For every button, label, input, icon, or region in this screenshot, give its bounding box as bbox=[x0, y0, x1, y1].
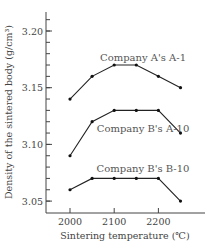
series-3: Company B's B-10 bbox=[68, 163, 189, 203]
data-point bbox=[68, 154, 71, 157]
data-point bbox=[179, 200, 182, 203]
series-line bbox=[70, 178, 181, 201]
data-point bbox=[113, 109, 116, 112]
y-tick-label: 3.10 bbox=[22, 139, 43, 150]
series-line bbox=[70, 65, 181, 99]
data-point bbox=[157, 177, 160, 180]
data-point bbox=[157, 109, 160, 112]
data-point bbox=[135, 63, 138, 66]
y-tick-label: 3.20 bbox=[22, 26, 43, 37]
data-point bbox=[113, 177, 116, 180]
series-label: Company A's A-1 bbox=[100, 52, 186, 63]
data-point bbox=[135, 109, 138, 112]
x-tick-label: 2100 bbox=[102, 216, 126, 227]
data-point bbox=[157, 75, 160, 78]
data-point bbox=[91, 177, 94, 180]
series-1: Company A's A-1 bbox=[68, 52, 186, 101]
series-group: Company A's A-1Company B's A-10Company B… bbox=[68, 52, 189, 203]
series-label: Company B's B-10 bbox=[97, 163, 190, 174]
data-point bbox=[113, 63, 116, 66]
series-2: Company B's A-10 bbox=[68, 109, 189, 158]
y-axis-title: Density of the sintered body (g/cm³) bbox=[3, 25, 14, 199]
data-point bbox=[91, 120, 94, 123]
y-tick-label: 3.15 bbox=[22, 82, 43, 93]
data-point bbox=[135, 177, 138, 180]
x-tick-label: 2000 bbox=[58, 216, 82, 227]
x-axis-title: Sintering temperature (℃) bbox=[60, 230, 189, 241]
data-point bbox=[68, 188, 71, 191]
series-label: Company B's A-10 bbox=[97, 123, 190, 134]
line-chart: 3.053.103.153.20200021002200 Company A's… bbox=[0, 0, 210, 250]
axes bbox=[46, 12, 205, 213]
data-point bbox=[68, 97, 71, 100]
y-tick-label: 3.05 bbox=[22, 196, 43, 207]
data-point bbox=[91, 75, 94, 78]
x-tick-label: 2200 bbox=[146, 216, 170, 227]
data-point bbox=[179, 86, 182, 89]
